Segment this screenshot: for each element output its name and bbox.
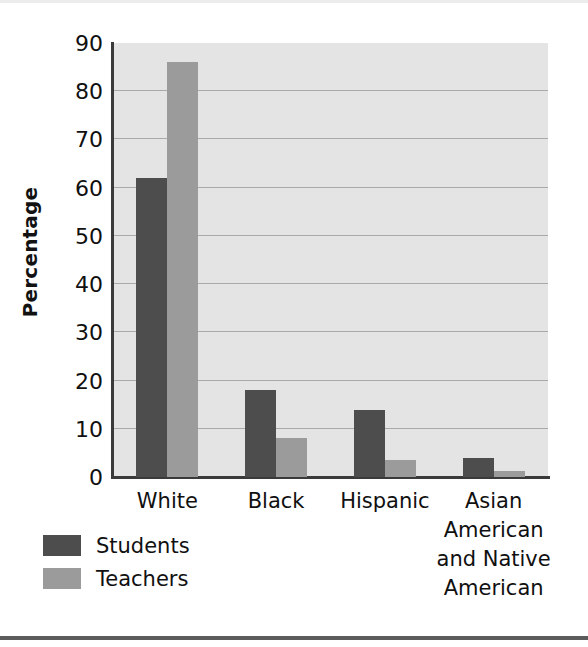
bottom-divider-rule — [0, 636, 588, 640]
y-axis-tick-label: 20 — [3, 368, 103, 393]
y-axis-tick-label: 10 — [3, 416, 103, 441]
bar-students-asian-american-and-native-american — [463, 458, 494, 477]
x-axis-tick-line: American — [421, 516, 566, 545]
x-axis-tick-line: Asian — [421, 487, 566, 516]
bar-teachers-asian-american-and-native-american — [494, 471, 525, 477]
y-axis-tick-label: 60 — [3, 175, 103, 200]
bar-teachers-black — [276, 438, 307, 477]
bar-teachers-white — [167, 62, 198, 477]
x-axis-tick-line: and Native — [421, 545, 566, 574]
legend-item-teachers: Teachers — [43, 562, 190, 595]
y-axis-tick-label: 40 — [3, 272, 103, 297]
y-axis-tick-label: 90 — [3, 31, 103, 56]
bar-students-hispanic — [354, 410, 385, 478]
students-swatch — [43, 535, 81, 556]
teachers-swatch — [43, 568, 81, 589]
y-axis-tick-label: 30 — [3, 320, 103, 345]
y-axis-tick-label: 0 — [3, 465, 103, 490]
bar-students-black — [245, 390, 276, 477]
y-axis-tick-label: 80 — [3, 79, 103, 104]
legend-item-label: Teachers — [96, 567, 188, 591]
y-axis-line — [111, 42, 114, 479]
bar-students-white — [136, 178, 167, 477]
y-axis-tick-label: 50 — [3, 223, 103, 248]
y-axis-tick-label: 70 — [3, 127, 103, 152]
bar-chart-figure: Percentage 0102030405060708090 WhiteBlac… — [0, 0, 588, 647]
x-axis-tick-label: AsianAmericanand NativeAmerican — [421, 487, 566, 603]
bar-teachers-hispanic — [385, 460, 416, 477]
legend-item-students: Students — [43, 529, 190, 562]
chart-legend: StudentsTeachers — [43, 529, 190, 595]
legend-item-label: Students — [96, 534, 190, 558]
x-axis-tick-line: American — [421, 574, 566, 603]
